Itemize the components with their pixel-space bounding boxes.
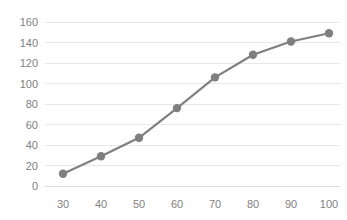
y-tick-label-120: 120: [20, 57, 38, 69]
y-tick-label-80: 80: [26, 98, 38, 110]
y-tick-label-40: 40: [26, 139, 38, 151]
chart-plot-area: 160 140 120 100 80 60 40 20 0 30 40 50 6…: [0, 0, 347, 220]
x-tick-label-90: 90: [285, 198, 297, 210]
x-tick-label-50: 50: [133, 198, 145, 210]
x-tick-label-80: 80: [247, 198, 259, 210]
data-point-marker: [59, 170, 67, 178]
x-tick-label-70: 70: [209, 198, 221, 210]
data-point-marker: [249, 51, 257, 59]
x-tick-label-60: 60: [171, 198, 183, 210]
y-tick-label-140: 140: [20, 37, 38, 49]
data-point-marker: [173, 104, 181, 112]
data-point-marker: [211, 73, 219, 81]
data-point-marker: [287, 37, 295, 45]
y-tick-label-20: 20: [26, 160, 38, 172]
y-tick-label-0: 0: [32, 180, 38, 192]
data-point-marker: [325, 29, 333, 37]
x-tick-label-30: 30: [57, 198, 69, 210]
y-tick-label-60: 60: [26, 119, 38, 131]
y-tick-label-100: 100: [20, 78, 38, 90]
x-tick-label-40: 40: [95, 198, 107, 210]
y-tick-label-160: 160: [20, 16, 38, 28]
x-tick-label-100: 100: [320, 198, 338, 210]
line-chart: 160 140 120 100 80 60 40 20 0 30 40 50 6…: [0, 0, 347, 220]
data-point-marker: [97, 152, 105, 160]
data-point-marker: [135, 134, 143, 142]
